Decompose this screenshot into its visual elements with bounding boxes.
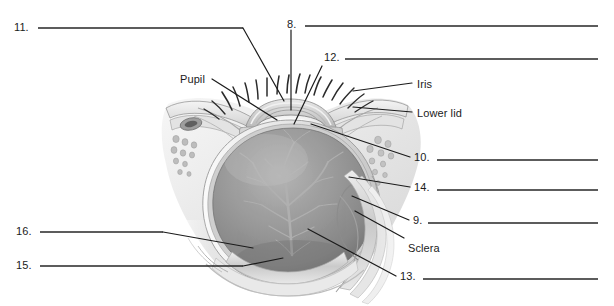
leader-11: [243, 28, 284, 101]
worksheet-page: 11.8.12.PupilIrisLower lid10.14.9.Sclera…: [0, 0, 614, 306]
label-12: 12.: [324, 52, 340, 63]
eye-anatomy-illustration: [0, 0, 614, 306]
label-sclera: Sclera: [408, 243, 440, 254]
label-lowerlid: Lower lid: [417, 108, 462, 119]
edge-fade-left: [150, 220, 210, 306]
leader-iris: [353, 83, 412, 91]
label-16: 16.: [16, 226, 32, 237]
label-8: 8.: [287, 19, 296, 30]
label-9: 9.: [413, 215, 422, 226]
label-pupil: Pupil: [180, 74, 205, 85]
label-11: 11.: [14, 22, 29, 33]
label-14: 14.: [414, 182, 430, 193]
label-iris: Iris: [417, 79, 432, 90]
label-13: 13.: [400, 271, 416, 282]
label-15: 15.: [16, 260, 32, 271]
label-10: 10.: [414, 152, 430, 163]
